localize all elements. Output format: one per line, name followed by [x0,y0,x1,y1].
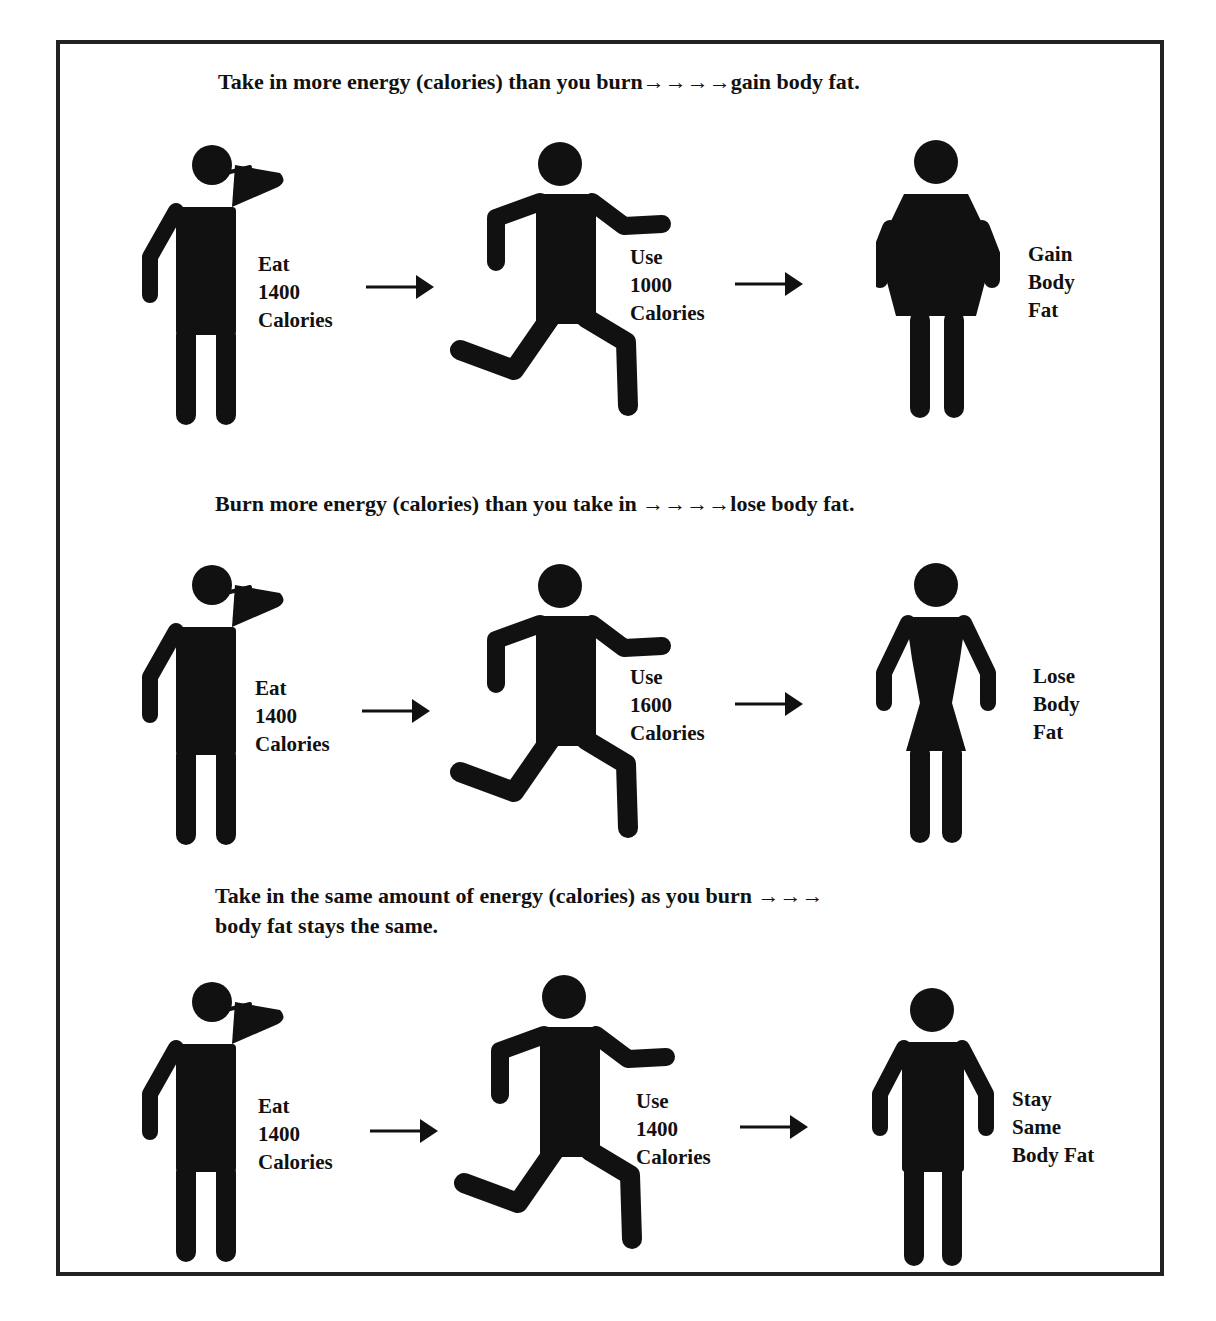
arrow-right-icon [362,696,430,726]
row1-use-label: Use 1000 Calories [630,243,705,327]
row3-use-label: Use 1400 Calories [636,1087,711,1171]
row1-heading: Take in more energy (calories) than you … [218,68,860,96]
row3-heading-line1: Take in the same amount of energy (calor… [215,882,823,910]
row3-eat-label: Eat 1400 Calories [258,1092,333,1176]
row1-result-label: Gain Body Fat [1028,240,1075,324]
standard-figure-icon [872,988,997,1270]
arrow-right-icon [735,269,803,299]
arrow-right-icon [735,689,803,719]
row2-heading: Burn more energy (calories) than you tak… [215,490,854,518]
row3-result-label: Stay Same Body Fat [1012,1085,1094,1169]
row3-heading-line2: body fat stays the same. [215,912,438,940]
slimmer-figure-icon [876,563,1001,848]
row2-eat-label: Eat 1400 Calories [255,674,330,758]
row1-eat-label: Eat 1400 Calories [258,250,333,334]
row2-result-label: Lose Body Fat [1033,662,1080,746]
row2-use-label: Use 1600 Calories [630,663,705,747]
heavier-figure-icon [876,140,1001,420]
arrow-right-icon [370,1116,438,1146]
arrow-right-icon [366,272,434,302]
arrow-right-icon [740,1112,808,1142]
